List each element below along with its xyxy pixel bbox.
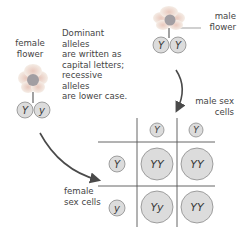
female-arrow-icon <box>40 133 98 180</box>
female-allele-1: Y <box>22 105 29 116</box>
row-header-1: Y <box>114 159 121 170</box>
male-flower-icon <box>153 6 201 38</box>
cell-r1-c2: YY <box>190 158 205 171</box>
cell-r2-c2: YY <box>190 201 205 214</box>
cell-r1-c1: YY <box>150 158 165 171</box>
punnett-diagram: Y y Y Y Y Y Y y <box>0 0 252 236</box>
male-arrow-icon <box>176 70 182 110</box>
male-allele-2: Y <box>175 40 182 51</box>
male-parent-alleles: Y Y <box>153 37 186 53</box>
female-allele-2: y <box>38 105 46 116</box>
female-flower-icon <box>18 64 48 103</box>
male-allele-1: Y <box>158 40 165 51</box>
cell-r2-c1: Yy <box>150 201 164 214</box>
column-headers: Y Y <box>150 123 203 137</box>
female-parent-alleles: Y y <box>17 102 50 118</box>
row-header-2: y <box>113 203 121 214</box>
